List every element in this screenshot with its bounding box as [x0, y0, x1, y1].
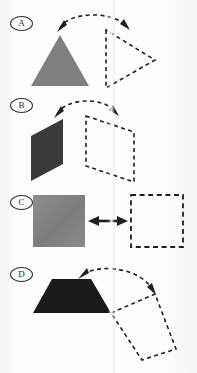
rotation-arc-head-left [78, 268, 89, 279]
solid-parallelogram [31, 119, 63, 181]
scanned-page: A B C [0, 0, 197, 373]
solid-square [33, 195, 85, 247]
rotation-arc-path [57, 101, 115, 114]
rotation-arc-head-right [120, 19, 130, 30]
translation-arrow-head-left [88, 216, 99, 226]
solid-triangle [31, 35, 89, 86]
rotation-arc-head-right [147, 283, 156, 295]
rotation-arc-path [60, 15, 126, 28]
panel-a-figure [0, 0, 197, 92]
panel-d-figure [0, 265, 197, 373]
panel-b: B [0, 92, 197, 185]
dashed-quadrilateral [111, 294, 176, 360]
rotation-arc-head-right [109, 105, 119, 116]
solid-trapezoid [33, 279, 111, 313]
panel-b-figure [0, 92, 197, 185]
dashed-square [131, 195, 183, 247]
panel-c-figure [0, 185, 197, 265]
panel-a: A [0, 0, 197, 92]
panel-c: C [0, 185, 197, 265]
panel-d: D [0, 265, 197, 373]
dashed-parallelogram [86, 116, 134, 182]
translation-arrow-head-right [117, 216, 128, 226]
dashed-triangle [106, 30, 155, 88]
